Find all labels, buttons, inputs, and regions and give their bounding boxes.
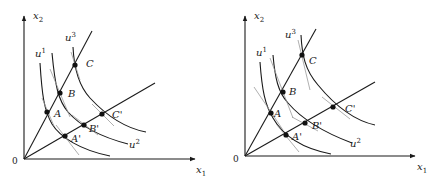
origin-label: 0: [12, 156, 18, 166]
curve-label-u1: u1: [35, 47, 46, 59]
label-a: A: [273, 108, 281, 119]
point-c: [299, 52, 304, 57]
origin-label: 0: [233, 154, 239, 164]
label-c-prime: C': [112, 109, 122, 120]
curve-label-u1: u1: [256, 46, 267, 58]
label-b-prime: B': [88, 123, 99, 134]
point-b-prime: [81, 122, 86, 127]
curve-label-u3: u3: [65, 31, 76, 43]
label-a: A: [53, 108, 61, 119]
y-axis-label: x2: [254, 10, 264, 24]
point-c: [72, 62, 77, 67]
label-b-prime: B': [311, 120, 322, 131]
label-c: C: [309, 55, 317, 66]
point-a-prime: [283, 132, 288, 137]
y-axis-label: x2: [33, 10, 43, 24]
point-c-prime: [99, 111, 104, 116]
label-c: C: [86, 58, 94, 69]
left-panel: x2 x1 0 A B C A' B' C' u1 u2 u3: [12, 10, 206, 178]
label-a-prime: A': [70, 133, 81, 144]
curve-label-u2: u2: [129, 138, 140, 150]
indifference-curve-u3: [73, 47, 146, 132]
label-c-prime: C': [345, 103, 355, 114]
right-panel: x2 x1 0 A B C A' B' C' u1 u2 u3: [233, 10, 427, 175]
curve-label-u3: u3: [285, 28, 296, 40]
point-c-prime: [330, 104, 335, 109]
x-axis-label: x1: [196, 164, 206, 178]
indifference-curves-figure: x2 x1 0 A B C A' B' C' u1 u2 u3: [0, 0, 438, 178]
curve-label-u2: u2: [350, 137, 361, 149]
point-a: [268, 110, 273, 115]
label-b: B: [67, 88, 75, 99]
point-b: [57, 90, 62, 95]
point-b-prime: [302, 120, 307, 125]
label-b: B: [288, 86, 296, 97]
point-a: [44, 109, 49, 114]
x-axis-label: x1: [417, 161, 427, 175]
point-b: [280, 89, 285, 94]
label-a-prime: A': [291, 131, 302, 142]
point-a-prime: [62, 133, 67, 138]
indifference-curve-u3: [301, 35, 375, 125]
